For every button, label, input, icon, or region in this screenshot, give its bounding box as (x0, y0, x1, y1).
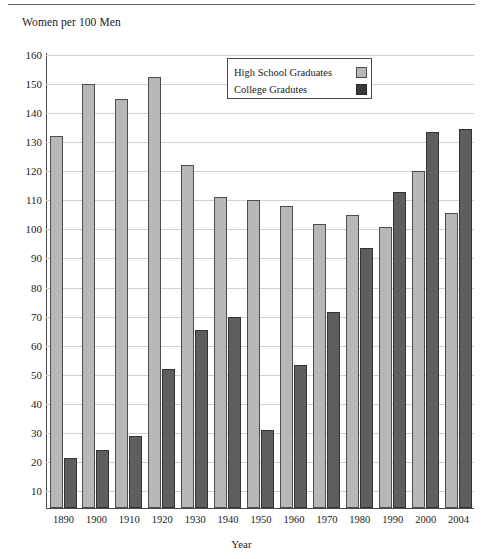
y-tick-label-40: 40 (12, 399, 42, 410)
legend-label-high-school-graduates: High School Graduates (234, 67, 332, 78)
bar-college-gradutes-1960[interactable] (294, 365, 307, 508)
y-tick-label-10: 10 (12, 486, 42, 497)
y-axis-tick-labels: 102030405060708090100110120130140150160 (10, 0, 42, 559)
bar-college-gradutes-1990[interactable] (393, 192, 406, 508)
bar-college-gradutes-1940[interactable] (228, 317, 241, 508)
y-tick-label-90: 90 (12, 253, 42, 264)
bar-group-1960 (280, 55, 308, 508)
bar-college-gradutes-1980[interactable] (360, 248, 373, 508)
y-tick-label-160: 160 (12, 50, 42, 61)
bar-college-gradutes-1890[interactable] (64, 458, 77, 508)
bar-group-1890 (50, 55, 78, 508)
y-tick-label-80: 80 (12, 283, 42, 294)
bar-high-school-graduates-2004[interactable] (445, 213, 458, 508)
bar-group-1970 (313, 55, 341, 508)
legend-label-college-gradutes: College Gradutes (234, 84, 307, 95)
bar-college-gradutes-1920[interactable] (162, 369, 175, 508)
bar-chart: Women per 100 Men 1020304050607080901001… (0, 0, 483, 559)
x-tick-label-2004: 2004 (438, 513, 480, 526)
bar-high-school-graduates-1950[interactable] (247, 200, 260, 508)
legend-entry-high-school-graduates: High School Graduates (234, 64, 367, 80)
bar-group-1930 (181, 55, 209, 508)
y-tick-label-70: 70 (12, 312, 42, 323)
bar-high-school-graduates-1910[interactable] (115, 99, 128, 508)
bar-high-school-graduates-1930[interactable] (181, 165, 194, 508)
bar-college-gradutes-1970[interactable] (327, 312, 340, 508)
bar-high-school-graduates-1970[interactable] (313, 224, 326, 508)
y-tick-label-20: 20 (12, 457, 42, 468)
bar-high-school-graduates-2000[interactable] (412, 171, 425, 508)
y-tick-label-130: 130 (12, 137, 42, 148)
bar-college-gradutes-2000[interactable] (426, 132, 439, 508)
bar-college-gradutes-1930[interactable] (195, 330, 208, 508)
x-axis-title: Year (0, 538, 483, 550)
legend-swatch-dark-gray-square (356, 84, 367, 95)
bar-group-1950 (247, 55, 275, 508)
y-tick-label-120: 120 (12, 166, 42, 177)
bar-college-gradutes-1910[interactable] (129, 436, 142, 508)
legend-swatch-light-gray-square (356, 67, 367, 78)
bar-high-school-graduates-1940[interactable] (214, 197, 227, 508)
chart-legend: High School Graduates College Gradutes (227, 58, 372, 99)
x-axis-line (46, 508, 474, 509)
y-tick-label-150: 150 (12, 79, 42, 90)
y-tick-label-140: 140 (12, 108, 42, 119)
bar-high-school-graduates-1980[interactable] (346, 215, 359, 508)
bar-group-1940 (214, 55, 242, 508)
y-tick-label-60: 60 (12, 341, 42, 352)
y-tick-label-100: 100 (12, 224, 42, 235)
bar-group-1990 (379, 55, 407, 508)
bar-college-gradutes-1950[interactable] (261, 430, 274, 508)
y-tick-label-110: 110 (12, 195, 42, 206)
bar-group-2004 (445, 55, 473, 508)
plot-area (46, 55, 474, 508)
bar-group-1910 (115, 55, 143, 508)
bar-high-school-graduates-1890[interactable] (50, 136, 63, 508)
bar-group-1920 (148, 55, 176, 508)
bar-group-1900 (82, 55, 110, 508)
y-tick-label-50: 50 (12, 370, 42, 381)
bar-group-2000 (412, 55, 440, 508)
legend-entry-college-gradutes: College Gradutes (234, 81, 367, 97)
bar-high-school-graduates-1990[interactable] (379, 227, 392, 509)
bar-high-school-graduates-1900[interactable] (82, 84, 95, 508)
bar-group-1980 (346, 55, 374, 508)
y-tick-label-30: 30 (12, 428, 42, 439)
bar-college-gradutes-1900[interactable] (96, 450, 109, 508)
bar-high-school-graduates-1920[interactable] (148, 77, 161, 508)
bar-high-school-graduates-1960[interactable] (280, 206, 293, 508)
bar-college-gradutes-2004[interactable] (459, 129, 472, 508)
